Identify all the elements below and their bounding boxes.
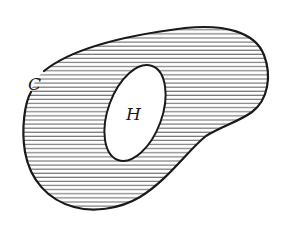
- label-h: H: [125, 104, 142, 124]
- label-c: C: [28, 74, 41, 94]
- region-diagram: C H: [0, 0, 288, 228]
